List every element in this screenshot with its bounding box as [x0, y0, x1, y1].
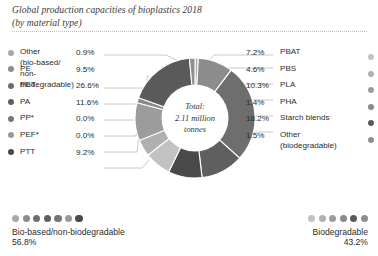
legend-item-biodeg-percent: 4.6%: [246, 64, 276, 75]
legend-item-biodeg-percent: 7.2%: [246, 47, 276, 58]
legend-biodegradable: 7.2%PBAT4.6%PBS10.3%PLA1.4%PHA18.2%Starc…: [246, 46, 374, 146]
summary-dot-icon: [308, 215, 315, 222]
summary-dot-icon: [350, 215, 357, 222]
summary-dot-icon: [65, 215, 72, 222]
summary-dot-icon: [12, 215, 19, 222]
legend-item-biodeg-label: PBS: [280, 63, 356, 74]
legend-item-biodeg-label: PHA: [280, 96, 356, 107]
summary-dot-icon: [44, 215, 51, 222]
legend-swatch-wrap: [362, 129, 374, 147]
legend-item-bio-percent: 0.9%: [76, 47, 94, 58]
legend-item-biodeg-row[interactable]: 4.6%PBS: [246, 63, 374, 80]
legend-bio-based: Other (bio-based/ non-biodegradable)0.9%…: [8, 46, 136, 162]
summary-label-bio-based: Bio-based/non-biodegradable: [12, 227, 125, 238]
page-title: Global production capacities of bioplast…: [12, 4, 342, 29]
legend-swatch-wrap: [362, 79, 374, 97]
legend-item-biodeg-percent: 18.2%: [246, 113, 276, 124]
legend-swatch-icon: [8, 132, 14, 138]
legend-item-bio-label: PE: [20, 63, 82, 74]
legend-item-biodeg-label: Other (biodegradable): [280, 129, 356, 151]
legend-item-bio-row[interactable]: PE9.5%: [8, 63, 136, 80]
legend-swatch-icon: [8, 66, 14, 72]
summary-dots-biodegradable: [308, 215, 368, 222]
legend-item-bio-percent: 26.6%: [76, 80, 99, 91]
legend-swatch-icon: [368, 54, 374, 60]
summary-dot-icon: [54, 215, 61, 222]
summary-dot-icon: [319, 215, 326, 222]
legend-swatch-icon: [8, 99, 14, 105]
summary-pct-biodegradable: 43.2%: [308, 237, 368, 248]
legend-item-biodeg-row[interactable]: 1.5%Other (biodegradable): [246, 129, 374, 146]
legend-item-bio-row[interactable]: PET26.6%: [8, 79, 136, 96]
donut-chart: Total: 2.11 million tonnes: [133, 56, 257, 180]
legend-item-bio-label: PET: [20, 79, 82, 90]
legend-item-biodeg-row[interactable]: 18.2%Starch blends: [246, 112, 374, 129]
legend-swatch-icon: [8, 149, 14, 155]
summary-dot-icon: [340, 215, 347, 222]
summary-dot-icon: [361, 215, 368, 222]
legend-swatch-icon: [368, 137, 374, 143]
legend-item-biodeg-label: PLA: [280, 79, 356, 90]
center-line-1: Total:: [157, 101, 233, 113]
legend-item-biodeg-row[interactable]: 7.2%PBAT: [246, 46, 374, 63]
legend-swatch-wrap: [362, 63, 374, 81]
legend-swatch-icon: [368, 87, 374, 93]
title-divider: [12, 31, 367, 32]
summary-bio-based: Bio-based/non-biodegradable 56.8%: [12, 215, 125, 248]
legend-item-biodeg-row[interactable]: 10.3%PLA: [246, 79, 374, 96]
legend-item-biodeg-percent: 1.5%: [246, 130, 276, 141]
legend-item-bio-label: PEF*: [20, 129, 82, 140]
legend-item-biodeg-percent: 10.3%: [246, 80, 276, 91]
summary-dot-icon: [23, 215, 30, 222]
chart-figure: Global production capacities of bioplast…: [0, 0, 378, 256]
legend-item-bio-label: PA: [20, 96, 82, 107]
legend-item-bio-row[interactable]: PTT9.2%: [8, 146, 136, 163]
legend-item-bio-label: PTT: [20, 146, 82, 157]
legend-swatch-icon: [8, 50, 14, 56]
legend-item-biodeg-label: PBAT: [280, 46, 356, 57]
title-line-1: Global production capacities of bioplast…: [12, 4, 342, 17]
center-line-2: 2.11 million: [157, 112, 233, 124]
title-line-2: (by material type): [12, 17, 342, 30]
legend-item-biodeg-label: Starch blends: [280, 112, 356, 123]
legend-item-biodeg-row[interactable]: 1.4%PHA: [246, 96, 374, 113]
legend-swatch-icon: [8, 83, 14, 89]
legend-item-bio-percent: 0.0%: [76, 130, 94, 141]
summary-biodegradable: Biodegradable 43.2%: [308, 215, 368, 248]
summary-label-biodegradable: Biodegradable: [308, 227, 368, 238]
legend-swatch-icon: [368, 104, 374, 110]
summary-dot-icon: [33, 215, 40, 222]
donut-center-label: Total: 2.11 million tonnes: [157, 101, 233, 136]
summary-pct-bio-based: 56.8%: [12, 237, 125, 248]
summary-dots-bio-based: [12, 215, 125, 222]
legend-item-bio-percent: 9.2%: [76, 147, 94, 158]
legend-item-bio-row[interactable]: PEF*0.0%: [8, 129, 136, 146]
legend-swatch-wrap: [362, 46, 374, 64]
legend-swatch-icon: [8, 116, 14, 122]
summary-dot-icon: [329, 215, 336, 222]
legend-item-bio-row[interactable]: PA11.6%: [8, 96, 136, 113]
legend-swatch-icon: [368, 120, 374, 126]
center-line-3: tonnes: [157, 124, 233, 136]
summary-dot-icon: [75, 215, 82, 222]
legend-item-biodeg-percent: 1.4%: [246, 97, 276, 108]
legend-item-bio-percent: 9.5%: [76, 64, 94, 75]
legend-item-bio-row[interactable]: Other (bio-based/ non-biodegradable)0.9%: [8, 46, 136, 63]
legend-item-bio-label: PP*: [20, 112, 82, 123]
legend-swatch-wrap: [362, 112, 374, 130]
legend-item-bio-percent: 0.0%: [76, 113, 94, 124]
legend-swatch-wrap: [362, 96, 374, 114]
legend-item-bio-row[interactable]: PP*0.0%: [8, 112, 136, 129]
legend-item-bio-percent: 11.6%: [76, 97, 98, 108]
legend-swatch-icon: [368, 71, 374, 77]
